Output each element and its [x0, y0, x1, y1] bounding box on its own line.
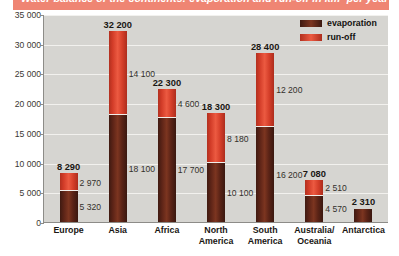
y-axis-tick-label: 5 000	[1, 188, 41, 198]
legend-label-evaporation: evaporation	[327, 18, 377, 28]
bar-segment-evaporation[interactable]	[207, 163, 225, 223]
y-axis-tick-label: 35 000	[1, 10, 41, 20]
bar-runoff-label: 12 200	[276, 85, 302, 95]
y-axis-tick-label: 15 000	[1, 129, 41, 139]
y-axis-tick-label: 25 000	[1, 69, 41, 79]
x-axis-label-north-america: North America	[199, 225, 234, 246]
bar-australia-oceania[interactable]	[305, 181, 323, 223]
bar-total-label: 22 300	[153, 78, 181, 88]
x-axis-label-africa: Africa	[154, 225, 179, 236]
x-axis-label-south-america: South America	[248, 225, 283, 246]
y-axis-tick-mark	[40, 223, 44, 224]
bar-total-label: 18 300	[202, 102, 230, 112]
bar-evaporation-label: 16 200	[276, 170, 302, 180]
bar-segment-runoff[interactable]	[305, 180, 323, 196]
bar-segment-evaporation[interactable]	[256, 127, 274, 223]
chart-title-banner: Water balance of the continents: evapora…	[13, 0, 389, 10]
legend-item-runoff[interactable]: run-off	[300, 31, 395, 43]
gridline	[44, 15, 388, 16]
bar-asia[interactable]	[109, 32, 127, 223]
bar-runoff-label: 2 970	[80, 178, 102, 188]
bar-total-label: 7 080	[303, 169, 326, 179]
x-axis-label-asia: Asia	[108, 225, 127, 236]
bar-evaporation-label: 4 570	[325, 204, 347, 214]
bar-segment-runoff[interactable]	[158, 89, 176, 117]
y-axis-tick-label: 10 000	[1, 159, 41, 169]
x-axis-line	[44, 222, 388, 223]
x-axis-label-australia-oceania: Australia/ Oceania	[294, 225, 334, 246]
bar-segment-evaporation[interactable]	[305, 196, 323, 223]
plot-area: 8 2902 9705 32032 20014 10018 10022 3004…	[44, 15, 388, 223]
bar-evaporation-label: 5 320	[80, 202, 102, 212]
chart-title: Water balance of the continents: evapora…	[21, 0, 388, 4]
x-axis-label-europe: Europe	[53, 225, 83, 236]
bar-evaporation-label: 18 100	[129, 164, 155, 174]
bar-evaporation-label: 10 100	[227, 188, 253, 198]
chart-legend: evaporationrun-off	[300, 17, 395, 45]
bar-antarctica[interactable]	[354, 209, 372, 223]
bar-total-label: 8 290	[57, 162, 80, 172]
bar-segment-runoff[interactable]	[256, 53, 274, 127]
bar-evaporation-label: 17 700	[178, 165, 204, 175]
bar-south-america[interactable]	[256, 54, 274, 223]
bar-europe[interactable]	[60, 174, 78, 223]
bar-segment-evaporation[interactable]	[158, 118, 176, 223]
legend-swatch-evaporation	[300, 20, 322, 27]
legend-label-runoff: run-off	[327, 32, 355, 42]
bar-total-label: 28 400	[251, 42, 279, 52]
x-axis-label-antarctica: Antarctica	[342, 225, 385, 236]
gridline	[44, 74, 388, 75]
bar-north-america[interactable]	[207, 114, 225, 223]
bar-segment-evaporation[interactable]	[354, 209, 372, 223]
y-axis-tick-label: 0	[1, 218, 41, 228]
y-axis: 05 00010 00015 00020 00025 00030 00035 0…	[0, 15, 41, 223]
bar-runoff-label: 8 180	[227, 134, 249, 144]
bar-total-label: 32 200	[103, 20, 131, 30]
legend-swatch-runoff	[300, 34, 322, 41]
bar-runoff-label: 2 510	[325, 183, 347, 193]
bar-segment-runoff[interactable]	[109, 31, 127, 116]
bar-segment-evaporation[interactable]	[109, 115, 127, 223]
bar-segment-evaporation[interactable]	[60, 191, 78, 223]
bar-runoff-label: 14 100	[129, 69, 155, 79]
bar-africa[interactable]	[158, 90, 176, 223]
y-axis-tick-label: 30 000	[1, 40, 41, 50]
y-axis-tick-label: 20 000	[1, 99, 41, 109]
bar-segment-runoff[interactable]	[207, 113, 225, 163]
bar-total-label: 2 310	[352, 197, 375, 207]
bar-segment-runoff[interactable]	[60, 173, 78, 192]
bar-runoff-label: 4 600	[178, 99, 200, 109]
legend-item-evaporation[interactable]: evaporation	[300, 17, 395, 29]
water-balance-bar-chart: Water balance of the continents: evapora…	[0, 0, 399, 256]
x-axis: EuropeAsiaAfricaNorth AmericaSouth Ameri…	[44, 225, 388, 256]
